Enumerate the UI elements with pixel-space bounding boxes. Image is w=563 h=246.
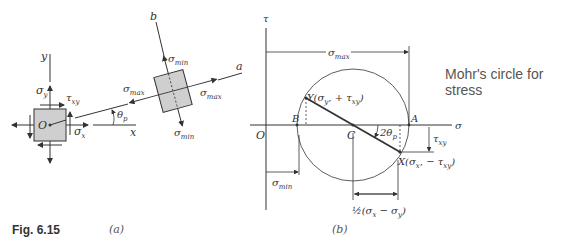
sigma-max-right-label: σmax	[200, 87, 222, 101]
y-axis-label: y	[40, 50, 48, 63]
panel-a: y O σy τxy σx x θp a b	[12, 10, 243, 163]
a-axis-label: a	[236, 60, 243, 73]
theta-arc	[112, 110, 114, 125]
point-o-label: O	[256, 129, 265, 142]
point-x-label: X(σx, − τxy)	[397, 156, 455, 170]
sigma-y-label: σy	[36, 84, 49, 99]
b-axis	[156, 22, 164, 56]
sigma-min-bottom-label: σmin	[174, 127, 195, 141]
origin-label: O	[38, 119, 47, 132]
half-diff-label: ½(σx − σy)	[352, 205, 406, 219]
sigma-min-top-label: σmin	[168, 53, 189, 67]
sigma-x-label: σx	[74, 125, 86, 140]
point-a-label: A	[410, 113, 418, 124]
figure-canvas: y O σy τxy σx x θp a b	[0, 0, 563, 246]
a-axis-far	[218, 73, 242, 80]
point-c-label: C	[347, 129, 356, 142]
sigma-min-dim-label: σmin	[272, 177, 293, 191]
panel-a-sublabel: (a)	[109, 223, 124, 236]
panel-b-sublabel: (b)	[332, 223, 348, 236]
b-axis-label: b	[150, 10, 157, 23]
point-b	[296, 124, 299, 127]
two-theta-label: 2θp	[379, 127, 397, 141]
panel-b: τ σ O B C A Y(σy, + τxy) X(σx, − τxy) 2θ…	[250, 13, 463, 219]
sigma-max-dim-label: σmax	[328, 47, 350, 61]
figure-caption: Mohr's circle for stress	[445, 66, 563, 98]
tau-axis-label: τ	[263, 13, 269, 24]
sigma-axis-label: σ	[455, 120, 463, 131]
figure-number: Fig. 6.15	[12, 223, 60, 237]
x-axis-label: x	[130, 126, 137, 139]
two-theta-arc	[375, 125, 378, 137]
point-c	[351, 123, 354, 126]
point-b-label: B	[291, 113, 299, 124]
tau-xy-dim-label: τxy	[433, 133, 447, 147]
tau-xy-label: τxy	[66, 92, 80, 106]
sigma-max-left-label: σmax	[123, 83, 145, 97]
theta-p-label: θp	[117, 109, 128, 123]
